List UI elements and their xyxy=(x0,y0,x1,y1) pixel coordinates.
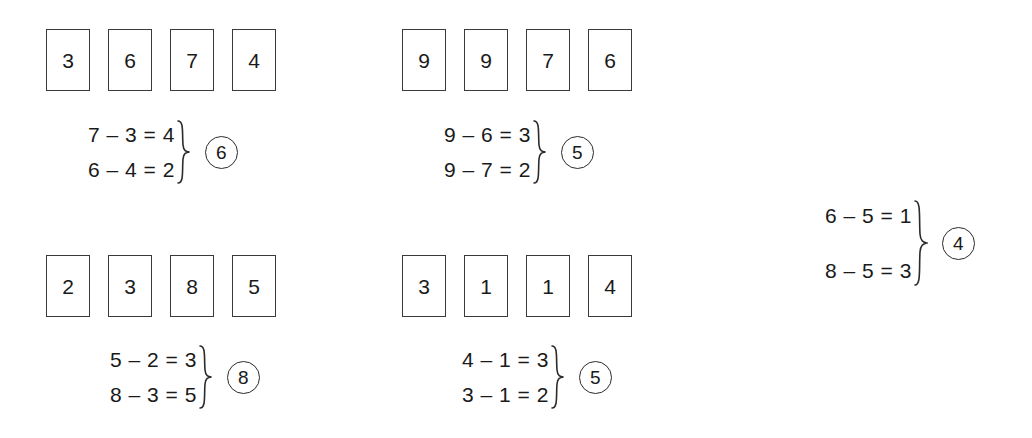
number-card[interactable]: 7 xyxy=(170,29,214,91)
number-card[interactable]: 8 xyxy=(170,255,214,317)
equation-block-3: 5 – 2 = 3 8 – 3 = 5 8 xyxy=(110,345,260,409)
curly-brace-icon xyxy=(532,120,547,184)
equation-block-1: 7 – 3 = 4 6 – 4 = 2 6 xyxy=(88,120,238,184)
card-row-3: 2 3 8 5 xyxy=(46,255,276,317)
number-card[interactable]: 3 xyxy=(402,255,446,317)
equation-line: 8 – 3 = 5 xyxy=(110,384,197,405)
equation-block-2: 9 – 6 = 3 9 – 7 = 2 5 xyxy=(444,120,594,184)
equation-lines: 7 – 3 = 4 6 – 4 = 2 xyxy=(88,124,175,180)
card-row-1: 3 6 7 4 xyxy=(46,29,276,91)
number-card[interactable]: 4 xyxy=(588,255,632,317)
curly-brace-icon xyxy=(913,200,928,286)
card-row-2: 9 9 7 6 xyxy=(402,29,632,91)
number-card[interactable]: 3 xyxy=(46,29,90,91)
answer-circle[interactable]: 5 xyxy=(561,136,594,169)
number-card[interactable]: 7 xyxy=(526,29,570,91)
equation-line: 4 – 1 = 3 xyxy=(462,349,549,370)
equation-line: 3 – 1 = 2 xyxy=(462,384,549,405)
curly-brace-icon xyxy=(550,345,565,409)
curly-brace-icon xyxy=(176,120,191,184)
worksheet-canvas: 3 6 7 4 7 – 3 = 4 6 – 4 = 2 6 9 9 7 6 xyxy=(0,0,1032,438)
equation-line: 6 – 4 = 2 xyxy=(88,159,175,180)
answer-circle[interactable]: 6 xyxy=(205,136,238,169)
number-card[interactable]: 9 xyxy=(402,29,446,91)
number-card[interactable]: 6 xyxy=(588,29,632,91)
equation-block-4: 4 – 1 = 3 3 – 1 = 2 5 xyxy=(462,345,612,409)
answer-circle[interactable]: 4 xyxy=(942,227,975,260)
number-card[interactable]: 1 xyxy=(464,255,508,317)
number-card[interactable]: 2 xyxy=(46,255,90,317)
number-card[interactable]: 1 xyxy=(526,255,570,317)
equation-line: 8 – 5 = 3 xyxy=(825,260,912,281)
equation-line: 9 – 6 = 3 xyxy=(444,124,531,145)
number-card[interactable]: 6 xyxy=(108,29,152,91)
equation-block-5: 6 – 5 = 1 8 – 5 = 3 4 xyxy=(825,200,975,286)
card-row-4: 3 1 1 4 xyxy=(402,255,632,317)
equation-line: 7 – 3 = 4 xyxy=(88,124,175,145)
equation-line: 5 – 2 = 3 xyxy=(110,349,197,370)
curly-brace-icon xyxy=(198,345,213,409)
equation-lines: 5 – 2 = 3 8 – 3 = 5 xyxy=(110,349,197,405)
number-card[interactable]: 3 xyxy=(108,255,152,317)
number-card[interactable]: 4 xyxy=(232,29,276,91)
answer-circle[interactable]: 5 xyxy=(579,361,612,394)
answer-circle[interactable]: 8 xyxy=(227,361,260,394)
number-card[interactable]: 9 xyxy=(464,29,508,91)
equation-lines: 6 – 5 = 1 8 – 5 = 3 xyxy=(825,205,912,281)
equation-line: 9 – 7 = 2 xyxy=(444,159,531,180)
equation-line: 6 – 5 = 1 xyxy=(825,205,912,226)
equation-lines: 9 – 6 = 3 9 – 7 = 2 xyxy=(444,124,531,180)
number-card[interactable]: 5 xyxy=(232,255,276,317)
equation-lines: 4 – 1 = 3 3 – 1 = 2 xyxy=(462,349,549,405)
